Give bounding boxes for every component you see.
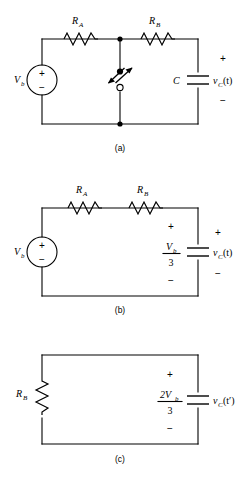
resistor-b-symbol-c: [36, 381, 48, 415]
capacitor-c-value-plus: +: [167, 369, 173, 380]
resistor-b-label-c-sub: B: [23, 394, 28, 402]
resistor-a-label-sub: A: [78, 21, 84, 29]
capacitor-b-value-minus: −: [168, 275, 174, 286]
voltage-source-b-minus: −: [39, 254, 45, 265]
circuit-figure-svg: + − V b R A R B C + −: [0, 0, 247, 488]
capacitor-b-terminal-plus: +: [215, 227, 221, 238]
capacitor-c-value-numerator: 2V: [160, 389, 173, 400]
resistor-a-label-b: R: [75, 184, 82, 195]
voltage-source-b-plus: +: [39, 240, 45, 251]
resistor-b-label-b-sub: B: [144, 190, 149, 198]
resistor-b-label-b: R: [136, 184, 143, 195]
caption-c: (c): [115, 454, 125, 464]
resistor-b-label-a-sub: B: [156, 21, 161, 29]
capacitor-c-value-denominator: 3: [168, 405, 173, 416]
resistor-a-label-b-sub: A: [82, 190, 88, 198]
voltage-source-a-label-sub: b: [21, 80, 25, 88]
voltage-source-a-minus: −: [39, 82, 45, 93]
resistor-a-label: R: [71, 15, 78, 26]
circuit-b: + − V b R A R B + V b 3 − + − v C (t) (b…: [14, 184, 232, 315]
capacitor-a-terminal-plus: +: [220, 53, 226, 64]
voltage-source-b-label-sub: b: [21, 252, 25, 260]
junction-dot-bottom-a: [117, 121, 122, 126]
capacitor-c-voltage-arg: (t′): [223, 395, 235, 407]
caption-b: (b): [115, 305, 126, 315]
resistor-b-label-a: R: [148, 15, 155, 26]
switch-throw-open-contact: [117, 84, 123, 90]
capacitor-a-terminal-minus: −: [220, 95, 226, 106]
circuit-a: + − V b R A R B C + −: [14, 15, 232, 153]
voltage-source-a-plus: +: [39, 68, 45, 79]
capacitor-c-value-minus: −: [167, 423, 173, 434]
spdt-switch[interactable]: [108, 68, 133, 91]
resistor-b-label-c: R: [15, 388, 22, 399]
caption-a: (a): [115, 143, 126, 153]
capacitor-a-label: C: [173, 75, 180, 86]
circuit-c: R B + 2V b 3 − v C (t′) (c): [15, 355, 235, 464]
capacitor-b-terminal-minus: −: [215, 268, 221, 279]
capacitor-b-value-plus: +: [168, 221, 174, 232]
figure-sheet: + − V b R A R B C + −: [0, 0, 247, 488]
capacitor-a-voltage-arg: (t): [223, 75, 232, 87]
capacitor-b-voltage-arg: (t): [223, 247, 232, 259]
capacitor-b-value-denominator: 3: [169, 257, 174, 268]
